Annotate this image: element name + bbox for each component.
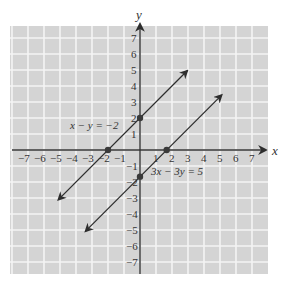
svg-text:6: 6 — [131, 48, 137, 60]
intercept-point — [137, 173, 143, 179]
svg-text:−7: −7 — [18, 152, 30, 164]
svg-text:3: 3 — [185, 152, 191, 164]
y-axis-label: y — [134, 7, 142, 22]
svg-text:−3: −3 — [82, 152, 94, 164]
svg-text:4: 4 — [201, 152, 207, 164]
svg-text:6: 6 — [233, 152, 239, 164]
svg-text:−2: −2 — [126, 176, 138, 188]
intercept-point — [137, 115, 143, 121]
svg-text:7: 7 — [131, 32, 137, 44]
equation-label-2: 3x − 3y = 5 — [150, 165, 204, 177]
svg-text:−3: −3 — [126, 192, 138, 204]
intercept-point — [105, 147, 111, 153]
x-axis-label: x — [271, 143, 278, 158]
svg-text:5: 5 — [217, 152, 223, 164]
svg-text:4: 4 — [131, 80, 137, 92]
coordinate-plane: −7−6−5−4−3−2−11234567−7−6−5−4−3−2−112345… — [0, 0, 288, 285]
svg-text:1: 1 — [131, 128, 137, 140]
svg-text:5: 5 — [131, 64, 137, 76]
svg-text:−1: −1 — [114, 152, 126, 164]
svg-text:−5: −5 — [50, 152, 62, 164]
svg-text:2: 2 — [169, 152, 175, 164]
svg-text:−5: −5 — [126, 224, 138, 236]
intercept-point — [163, 147, 169, 153]
svg-text:−6: −6 — [34, 152, 46, 164]
svg-text:7: 7 — [249, 152, 255, 164]
svg-text:−1: −1 — [126, 160, 138, 172]
equation-label-1: x − y = −2 — [69, 119, 119, 131]
svg-text:−6: −6 — [126, 240, 138, 252]
svg-text:3: 3 — [131, 96, 137, 108]
svg-text:−4: −4 — [66, 152, 78, 164]
svg-text:−7: −7 — [126, 256, 138, 268]
svg-text:−4: −4 — [126, 208, 138, 220]
